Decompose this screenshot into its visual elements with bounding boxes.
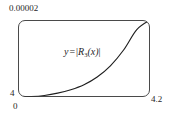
- y-axis-min-label: 4: [10, 89, 15, 98]
- y-axis-max-label: 0.00002: [9, 4, 38, 13]
- figure-canvas: 0.00002 4 0 4.2 y=|R3(x)|: [0, 0, 170, 116]
- x-axis-max-label: 4.2: [151, 95, 162, 104]
- plot-frame: [18, 20, 150, 97]
- equation-equals-sign: =: [68, 46, 76, 57]
- equation-argument: (x): [87, 46, 98, 57]
- equation-abs-bar-close: |: [99, 46, 101, 57]
- equation-subscript: 3: [84, 51, 87, 58]
- x-axis-min-label: 0: [13, 102, 18, 111]
- curve-equation-annotation: y=|R3(x)|: [64, 47, 101, 57]
